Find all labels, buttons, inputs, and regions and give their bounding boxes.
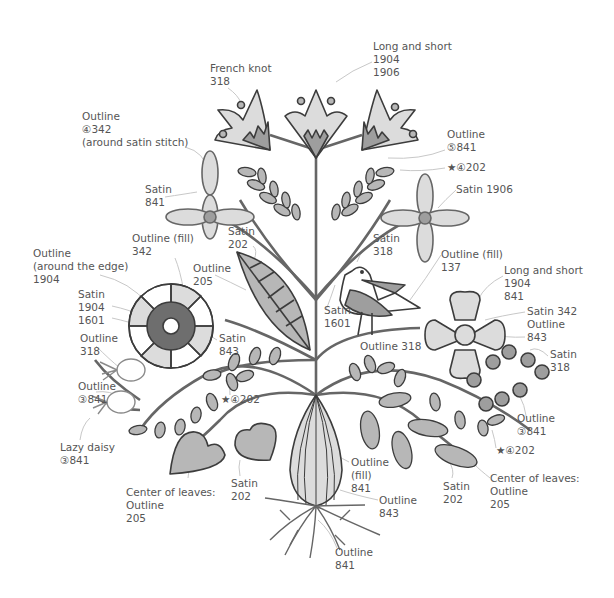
label-line: Outline — [82, 110, 188, 123]
label-line: ④342 — [82, 123, 188, 136]
label-line: (fill) — [351, 469, 389, 482]
label-line: ★④202 — [496, 444, 535, 457]
label-line: 342 — [132, 245, 194, 258]
tulip-left — [215, 90, 270, 150]
label-outline-5-841: Outline⑤841 — [447, 128, 485, 154]
label-star-4-202-top: ★④202 — [447, 161, 486, 174]
label-line: (around the edge) — [33, 260, 128, 273]
label-line: Outline — [78, 380, 116, 393]
bird — [340, 267, 420, 335]
label-outline-4-342: Outline④342(around satin stitch) — [82, 110, 188, 149]
label-line: 1904 — [504, 277, 583, 290]
label-line: ★④202 — [221, 393, 260, 406]
label-line: 843 — [527, 331, 577, 344]
label-line: 841 — [335, 559, 373, 572]
label-french-knot: French knot318 — [210, 62, 272, 88]
tulip-center — [285, 90, 347, 158]
label-line: 205 — [126, 512, 216, 525]
label-line: 843 — [379, 507, 417, 520]
label-line: Satin 342 — [527, 305, 577, 318]
label-line: ③841 — [78, 393, 116, 406]
label-line: Outline — [351, 456, 389, 469]
label-satin-202-right: Satin202 — [443, 480, 470, 506]
label-outline-318-mid: Outline 318 — [360, 340, 421, 353]
label-line: (around satin stitch) — [82, 136, 188, 149]
label-line: 205 — [490, 498, 580, 511]
label-line: 318 — [80, 345, 118, 358]
label-line: 318 — [373, 245, 400, 258]
label-satin-1904-1601: Satin19041601 — [78, 288, 105, 327]
label-satin-342-outline-843: Satin 342Outline843 — [527, 305, 577, 344]
label-line: 841 — [504, 290, 583, 303]
berries — [467, 345, 549, 411]
label-line: Outline — [335, 546, 373, 559]
label-line: Satin — [78, 288, 105, 301]
label-outline-843-bottom: Outline843 — [379, 494, 417, 520]
label-line: ③841 — [517, 425, 555, 438]
label-long-short-top: Long and short19041906 — [373, 40, 452, 79]
label-line: 137 — [441, 261, 503, 274]
big-leaf — [237, 252, 310, 350]
label-line: 1904 — [78, 301, 105, 314]
label-line: Outline — [379, 494, 417, 507]
label-line: 202 — [231, 490, 258, 503]
label-outline-fill-342: Outline (fill)342 — [132, 232, 194, 258]
tulip-right — [362, 90, 418, 150]
label-outline-318-left: Outline318 — [80, 332, 118, 358]
label-line: Satin — [219, 332, 246, 345]
label-satin-1601: Satin1601 — [324, 304, 351, 330]
label-line: Satin — [373, 232, 400, 245]
label-line: Outline — [527, 318, 577, 331]
label-line: Outline (fill) — [132, 232, 194, 245]
label-line: ⑤841 — [447, 141, 485, 154]
bulb — [290, 395, 342, 506]
label-line: Satin — [231, 477, 258, 490]
label-outline-fill-137: Outline (fill)137 — [441, 248, 503, 274]
label-line: 1904 — [33, 273, 128, 286]
label-line: Lazy daisy — [60, 441, 115, 454]
label-lazy-daisy: Lazy daisy③841 — [60, 441, 115, 467]
label-line: Satin — [145, 183, 172, 196]
label-line: 843 — [219, 345, 246, 358]
label-line: 318 — [550, 361, 577, 374]
label-line: Outline (fill) — [441, 248, 503, 261]
label-outline-fill-841: Outline(fill)841 — [351, 456, 389, 495]
label-star-4-202-left: ★④202 — [221, 393, 260, 406]
label-satin-318-right: Satin318 — [550, 348, 577, 374]
label-line: Outline — [517, 412, 555, 425]
label-line: Satin — [324, 304, 351, 317]
label-line: 1601 — [78, 314, 105, 327]
label-line: 1904 — [373, 53, 452, 66]
label-outline-205-top: Outline205 — [193, 262, 231, 288]
label-line: French knot — [210, 62, 272, 75]
label-star-4-202-right: ★④202 — [496, 444, 535, 457]
label-satin-202-top: Satin202 — [228, 225, 255, 251]
label-outline-3-841-left: Outline③841 — [78, 380, 116, 406]
label-satin-843: Satin843 — [219, 332, 246, 358]
label-line: 318 — [210, 75, 272, 88]
label-satin-318-top: Satin318 — [373, 232, 400, 258]
label-line: Satin — [443, 480, 470, 493]
label-line: 202 — [228, 238, 255, 251]
label-line: 202 — [443, 493, 470, 506]
label-line: Outline — [490, 485, 580, 498]
label-line: 205 — [193, 275, 231, 288]
label-line: Long and short — [373, 40, 452, 53]
label-line: Center of leaves: — [490, 472, 580, 485]
label-line: Center of leaves: — [126, 486, 216, 499]
label-line: Outline — [193, 262, 231, 275]
label-line: Outline — [33, 247, 128, 260]
label-outline-841-bottom: Outline841 — [335, 546, 373, 572]
wheel-flower — [129, 284, 213, 368]
label-line: Outline — [80, 332, 118, 345]
label-outline-around-edge: Outline(around the edge)1904 — [33, 247, 128, 286]
label-line: 1906 — [373, 66, 452, 79]
label-line: Satin — [550, 348, 577, 361]
label-line: Satin — [228, 225, 255, 238]
label-satin-841: Satin841 — [145, 183, 172, 209]
label-line: Outline 318 — [360, 340, 421, 353]
label-line: 1601 — [324, 317, 351, 330]
label-line: 841 — [145, 196, 172, 209]
label-line: ③841 — [60, 454, 115, 467]
label-satin-202-left: Satin202 — [231, 477, 258, 503]
